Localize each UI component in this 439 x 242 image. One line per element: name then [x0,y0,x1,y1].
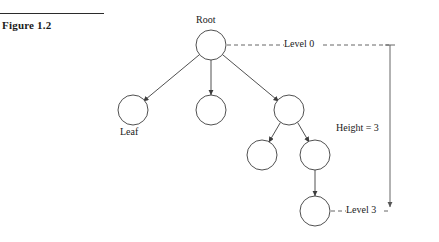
label-level-0: Level 0 [284,38,314,49]
node-leaf [118,95,148,125]
label-level-3: Level 3 [346,204,376,215]
tree-nodes [118,30,330,226]
node-level2-left [247,140,277,170]
node-level2-right [300,140,330,170]
label-height: Height = 3 [336,122,379,133]
label-root: Root [196,14,215,25]
edge-root-n1c [223,55,279,102]
figure-page: Figure 1.2 [0,0,439,242]
edge-root-n1a [143,55,199,102]
edge-n1c-n2a [269,122,281,142]
node-level3 [300,196,330,226]
node-root [196,30,226,60]
edge-n1c-n2b [298,122,310,142]
label-leaf: Leaf [120,126,138,137]
node-level1-middle [196,95,226,125]
height-measure [385,45,395,207]
node-level1-right [274,95,304,125]
